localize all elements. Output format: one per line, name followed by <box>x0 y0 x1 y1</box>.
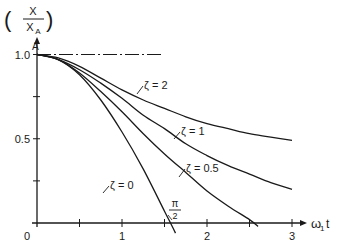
y-axis-label: (XXA) <box>4 5 53 36</box>
paren-right: ) <box>46 7 53 32</box>
pi-label: π <box>172 198 179 209</box>
x-tick-label: 0 <box>24 230 30 242</box>
paren-left: ( <box>4 7 12 32</box>
y-label-subscript: A <box>35 27 41 36</box>
pi-denominator: 2 <box>172 211 177 221</box>
damped-response-chart: 01230.51.0 ζ = 2ζ = 1ζ = 0.5ζ = 0Aπ2(XXA… <box>0 0 343 252</box>
x-axis-label-sub: 1 <box>320 224 325 233</box>
x-tick-label: 1 <box>119 230 125 242</box>
curve-label: ζ = 0 <box>110 179 134 191</box>
curve-label-leader <box>179 169 185 177</box>
curve-label: ζ = 1 <box>181 125 205 137</box>
x-tick-label: 2 <box>204 230 210 242</box>
curve-label-leader <box>137 86 143 94</box>
labels: ζ = 2ζ = 1ζ = 0.5ζ = 0Aπ2(XXA)ω1t <box>4 5 330 233</box>
point-a-label: A <box>32 41 39 52</box>
x-axis-label-t: t <box>326 217 330 231</box>
chart-svg: 01230.51.0 ζ = 2ζ = 1ζ = 0.5ζ = 0Aπ2(XXA… <box>0 0 343 252</box>
y-label-numerator: X <box>29 5 37 17</box>
curve-label: ζ = 2 <box>144 79 168 91</box>
y-label-denominator: X <box>26 21 34 33</box>
x-axis-arrow-icon <box>300 220 307 226</box>
curve-label: ζ = 0.5 <box>186 162 219 174</box>
curve-label-leader <box>103 186 109 193</box>
x-tick-label: 3 <box>289 230 295 242</box>
y-tick-label: 1.0 <box>15 49 30 61</box>
y-tick-label: 0.5 <box>15 133 30 145</box>
curve-1 <box>37 55 292 190</box>
